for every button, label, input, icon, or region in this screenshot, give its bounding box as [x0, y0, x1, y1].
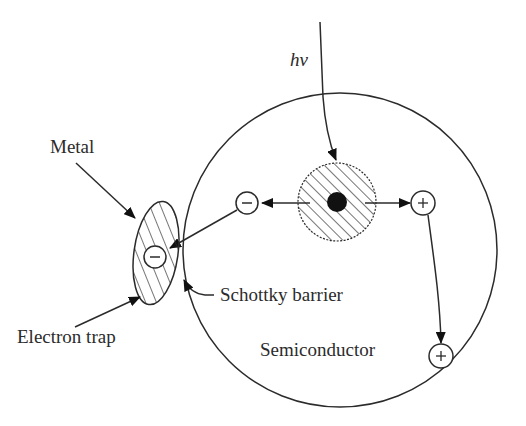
- hole-charge: [411, 191, 435, 215]
- trapped-electron: [144, 246, 166, 268]
- metal-label: Metal: [50, 136, 94, 157]
- photon-arrow: [320, 22, 336, 160]
- electron-trap-pointer-arrow: [75, 297, 140, 327]
- electron-trap-label: Electron trap: [17, 326, 116, 347]
- electron-charge: [236, 192, 258, 214]
- semiconductor-label: Semiconductor: [260, 339, 376, 360]
- excitation-core: [327, 192, 347, 212]
- photon-label: hv: [290, 49, 309, 70]
- schottky-diagram: hv Metal Electron trap Schottky barrier: [0, 0, 526, 426]
- electron-transfer-arrow: [170, 210, 237, 248]
- schottky-barrier-label: Schottky barrier: [220, 284, 344, 305]
- metal-pointer-arrow: [76, 163, 135, 218]
- hole-migration-arrow: [428, 215, 441, 343]
- hole-charge-surface: [429, 344, 453, 368]
